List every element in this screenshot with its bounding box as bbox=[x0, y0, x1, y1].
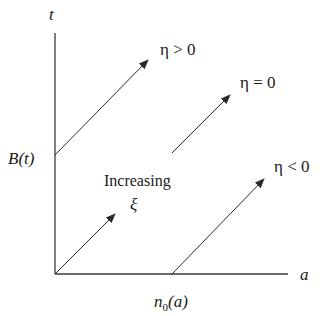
label-eta-zero: η = 0 bbox=[240, 73, 275, 92]
characteristics-diagram: t a B(t) n0(a) η > 0 η = 0 η < 0 Increas… bbox=[0, 0, 323, 316]
y-axis-label: t bbox=[49, 5, 55, 24]
y-intercept-label: B(t) bbox=[8, 149, 35, 168]
annotation-increasing: Increasing bbox=[104, 172, 171, 190]
arrow-eta-negative bbox=[172, 179, 264, 274]
arrow-eta-positive bbox=[55, 60, 148, 155]
arrow-eta-zero bbox=[172, 95, 230, 153]
label-eta-negative: η < 0 bbox=[274, 157, 309, 176]
label-eta-positive: η > 0 bbox=[160, 40, 195, 59]
arrow-increasing-xi bbox=[55, 214, 115, 274]
annotation-xi: ξ bbox=[130, 195, 138, 214]
x-axis-label: a bbox=[300, 265, 309, 284]
x-intercept-label: n0(a) bbox=[154, 292, 188, 313]
